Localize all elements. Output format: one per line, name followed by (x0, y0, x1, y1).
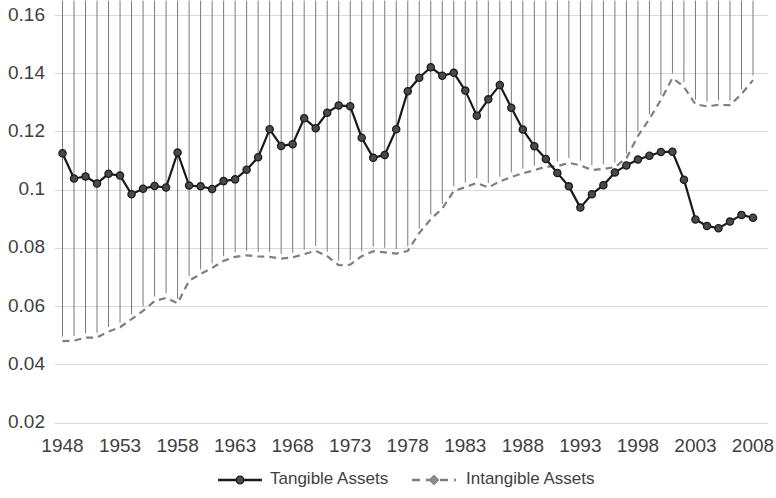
data-point-marker (174, 149, 181, 156)
data-point-marker (370, 154, 377, 161)
data-point-marker (335, 102, 342, 109)
data-point-marker (508, 104, 515, 111)
data-point-marker (105, 170, 112, 177)
data-point-marker (232, 176, 239, 183)
y-axis-tick-label: 0.12 (8, 120, 45, 141)
data-point-marker (59, 150, 66, 157)
data-point-marker (554, 169, 561, 176)
data-point-marker (393, 126, 400, 133)
y-axis-tick-label: 0.06 (8, 295, 45, 316)
x-axis-tick-label: 2003 (674, 435, 716, 456)
x-axis-tick-label: 1993 (559, 435, 601, 456)
data-point-marker (462, 87, 469, 94)
data-point-marker (669, 148, 676, 155)
data-point-marker (266, 126, 273, 133)
data-point-marker (301, 115, 308, 122)
data-point-marker (542, 155, 549, 162)
data-point-marker (404, 88, 411, 95)
data-point-marker (209, 185, 216, 192)
y-axis-tick-labels: 0.020.040.060.080.10.120.140.16 (8, 4, 45, 433)
data-point-marker (485, 96, 492, 103)
data-point-marker (531, 143, 538, 150)
data-point-marker (93, 180, 100, 187)
data-point-marker (358, 134, 365, 141)
x-axis-tick-label: 1953 (99, 435, 141, 456)
data-point-marker (82, 173, 89, 180)
data-point-marker (151, 182, 158, 189)
data-point-marker (255, 154, 262, 161)
data-point-marker (692, 216, 699, 223)
data-point-marker (278, 142, 285, 149)
data-point-marker (600, 182, 607, 189)
data-point-marker (680, 176, 687, 183)
data-point-marker (565, 183, 572, 190)
data-point-marker (220, 178, 227, 185)
legend-marker-circle-icon (236, 476, 244, 484)
y-axis-tick-label: 0.16 (8, 4, 45, 25)
x-axis-tick-labels: 1948195319581963196819731978198319881993… (41, 435, 774, 456)
chart-legend: Tangible AssetsIntangible Assets (218, 469, 595, 488)
data-point-marker (116, 172, 123, 179)
data-point-marker (726, 218, 733, 225)
data-point-marker (473, 112, 480, 119)
data-point-marker (450, 69, 457, 76)
series-intangible-assets (63, 1, 754, 342)
data-point-marker (496, 81, 503, 88)
data-point-marker (703, 222, 710, 229)
data-point-marker (439, 72, 446, 79)
y-axis-tick-label: 0.04 (8, 353, 45, 374)
x-axis-tick-label: 1988 (502, 435, 544, 456)
data-point-marker (715, 225, 722, 232)
x-axis-tick-label: 1998 (617, 435, 659, 456)
data-point-marker (289, 141, 296, 148)
legend-label-tangible-assets: Tangible Assets (270, 469, 388, 488)
line-chart: 0.020.040.060.080.10.120.140.16 19481953… (0, 0, 776, 498)
data-point-marker (185, 182, 192, 189)
x-axis-tick-label: 2008 (732, 435, 774, 456)
data-point-marker (162, 184, 169, 191)
x-axis-tick-label: 1978 (387, 435, 429, 456)
legend-label-intangible-assets: Intangible Assets (466, 469, 595, 488)
data-point-marker (588, 191, 595, 198)
data-point-marker (519, 126, 526, 133)
y-axis-tick-label: 0.14 (8, 62, 45, 83)
data-point-marker (749, 214, 756, 221)
data-point-marker (243, 166, 250, 173)
y-axis-tick-label: 0.02 (8, 411, 45, 432)
data-point-marker (324, 109, 331, 116)
data-point-marker (381, 151, 388, 158)
data-point-marker (312, 125, 319, 132)
data-point-marker (646, 152, 653, 159)
data-point-marker (623, 162, 630, 169)
data-point-marker (139, 185, 146, 192)
data-point-marker (70, 175, 77, 182)
x-axis-tick-label: 1983 (444, 435, 486, 456)
data-point-marker (657, 148, 664, 155)
x-axis-tick-label: 1958 (156, 435, 198, 456)
data-point-marker (738, 211, 745, 218)
x-axis-tick-label: 1973 (329, 435, 371, 456)
data-point-marker (634, 156, 641, 163)
x-axis-tick-label: 1968 (272, 435, 314, 456)
data-point-marker (347, 103, 354, 110)
data-point-marker (577, 204, 584, 211)
y-axis-tick-label: 0.1 (19, 178, 45, 199)
chart-container: 0.020.040.060.080.10.120.140.16 19481953… (0, 0, 776, 498)
legend-marker-diamond-icon (429, 475, 439, 485)
x-axis-tick-label: 1948 (41, 435, 83, 456)
y-axis-tick-label: 0.08 (8, 236, 45, 257)
x-axis-tick-label: 1963 (214, 435, 256, 456)
data-point-marker (128, 191, 135, 198)
data-point-marker (427, 64, 434, 71)
data-point-marker (416, 74, 423, 81)
data-point-marker (197, 183, 204, 190)
data-point-marker (611, 169, 618, 176)
